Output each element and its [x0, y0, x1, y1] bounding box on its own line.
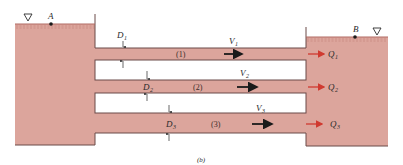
- svg-text:D: D: [116, 30, 124, 40]
- left-reservoir: [15, 24, 95, 145]
- svg-text:D: D: [165, 119, 173, 129]
- svg-text:1: 1: [124, 35, 127, 41]
- figure-caption: (b): [197, 156, 206, 164]
- point-b-marker: [353, 35, 357, 39]
- svg-text:2: 2: [150, 87, 153, 93]
- svg-text:Q: Q: [328, 82, 335, 92]
- svg-text:1: 1: [335, 54, 338, 60]
- svg-text:Q: Q: [330, 119, 337, 129]
- parallel-pipes-diagram: A B D 1 (1) V 1 Q 1 D 2 (2) V 2 Q 2 D 3 …: [0, 0, 403, 165]
- svg-text:1: 1: [235, 41, 238, 47]
- point-a-label: A: [47, 11, 54, 21]
- svg-text:3: 3: [172, 124, 176, 130]
- right-surface-symbol: [373, 28, 381, 35]
- svg-text:2: 2: [335, 87, 338, 93]
- svg-text:Q: Q: [328, 49, 335, 59]
- svg-text:3: 3: [336, 124, 340, 130]
- water-level-icon: [373, 28, 381, 35]
- point-a-marker: [49, 22, 53, 26]
- svg-text:(1): (1): [176, 50, 186, 59]
- water-level-icon: [24, 14, 32, 21]
- svg-text:(3): (3): [211, 120, 221, 129]
- svg-text:2: 2: [246, 73, 249, 79]
- svg-text:(2): (2): [193, 83, 203, 92]
- left-surface-symbol: [24, 14, 32, 21]
- svg-text:D: D: [142, 82, 150, 92]
- pipe-1: [95, 48, 306, 60]
- point-b-label: B: [353, 24, 359, 34]
- pipe-3: [95, 113, 306, 133]
- svg-text:3: 3: [261, 108, 265, 114]
